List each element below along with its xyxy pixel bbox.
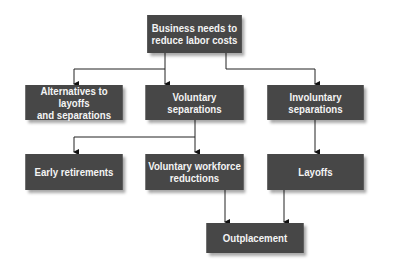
node-label: Voluntary separations — [167, 91, 221, 115]
node-involuntary-separations: Involuntary separations — [267, 85, 364, 120]
node-voluntary-separations: Voluntary separations — [145, 85, 243, 120]
node-outplacement: Outplacement — [206, 223, 304, 253]
node-layoffs: Layoffs — [267, 154, 364, 190]
node-label: Layoffs — [298, 166, 332, 178]
node-label: Voluntary workforce reductions — [148, 160, 241, 184]
node-business-needs: Business needs to reduce labor costs — [147, 15, 242, 53]
node-label: Business needs to reduce labor costs — [152, 22, 238, 46]
node-label: Outplacement — [223, 232, 287, 244]
node-alternatives: Alternatives to layoffs and separations — [25, 85, 123, 120]
node-early-retirements: Early retirements — [25, 154, 123, 190]
node-label: Early retirements — [35, 166, 114, 178]
node-label: Alternatives to layoffs and separations — [25, 85, 123, 121]
node-label: Involuntary separations — [288, 91, 342, 115]
node-voluntary-workforce-reductions: Voluntary workforce reductions — [145, 154, 243, 190]
